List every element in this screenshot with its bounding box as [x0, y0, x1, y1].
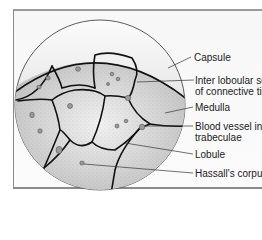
label-interlobular-septa: Inter loboular se of connective tis: [195, 75, 262, 97]
label-lobule: Lobule: [195, 149, 225, 160]
label-medulla: Medulla: [195, 102, 230, 113]
label-blood-vessel: Blood vessel in trabeculae: [195, 121, 262, 143]
blood-vessel-dot: [125, 95, 131, 100]
hassalls-corpuscle-dot: [80, 161, 84, 165]
label-capsule: Capsule: [194, 52, 231, 63]
label-hassalls-corpuscle: Hassall's corpus: [195, 168, 262, 179]
